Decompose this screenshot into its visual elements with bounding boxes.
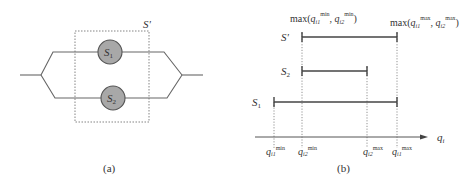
annotation-max-min: max(qi1min, qi2min) <box>290 11 357 25</box>
label-s2: S2 <box>281 65 291 79</box>
annotation-max-max: max(qi1max, qi2max) <box>390 15 459 29</box>
interval-s1 <box>274 97 397 107</box>
node-s1: S1 <box>98 40 122 64</box>
subsystem-label: S' <box>143 18 152 30</box>
tick-qi2-max: qi2max <box>363 145 383 157</box>
interval-bars <box>274 32 397 107</box>
caption-b: (b) <box>337 162 350 175</box>
tick-qi2-min: qi2min <box>298 145 317 157</box>
interval-s2 <box>302 66 367 76</box>
axis-label: qi <box>437 131 445 145</box>
lower-branch-left <box>41 75 101 98</box>
caption-a: (a) <box>103 162 116 175</box>
tick-qi1-min: qi1min <box>266 145 285 157</box>
dashed-guides <box>274 33 397 148</box>
node-s2: S2 <box>101 86 125 110</box>
interval-s-prime <box>302 32 397 42</box>
label-s1: S1 <box>252 96 262 110</box>
tick-qi1-max: qi1max <box>392 145 412 157</box>
lower-branch-right <box>125 75 182 98</box>
axis-qi <box>255 135 428 140</box>
upper-branch-left <box>41 52 98 75</box>
label-s-prime: S' <box>281 31 290 43</box>
upper-branch-right <box>122 52 182 75</box>
figure: S' S1 S2 (a) qi <box>0 0 468 186</box>
